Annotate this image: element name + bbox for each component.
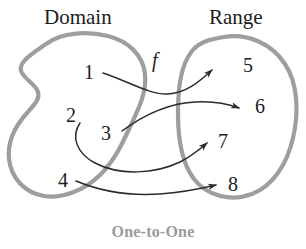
mapping-arrow-1-to-5	[103, 70, 212, 94]
domain-set-title: Domain	[44, 7, 112, 28]
range-set-title: Range	[209, 7, 263, 28]
one-to-one-function-diagram: Domain Range f 1 2 3 4 5 6 7 8 One-to-On…	[0, 0, 306, 249]
range-element-7: 7	[218, 131, 228, 151]
domain-element-3: 3	[101, 123, 111, 143]
domain-element-1: 1	[84, 62, 94, 82]
diagram-canvas	[0, 0, 306, 249]
domain-element-2: 2	[66, 105, 76, 125]
function-name-label: f	[152, 50, 158, 70]
range-element-8: 8	[228, 174, 238, 194]
range-element-6: 6	[255, 96, 265, 116]
range-element-5: 5	[243, 55, 253, 75]
figure-caption: One-to-One	[0, 223, 306, 241]
domain-element-4: 4	[58, 170, 68, 190]
